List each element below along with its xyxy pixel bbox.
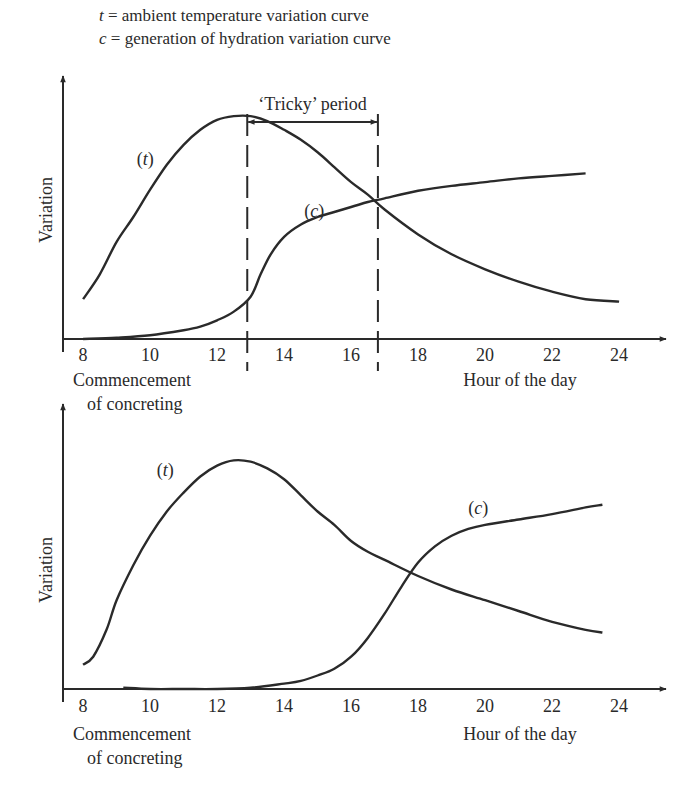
commencement-note-line1: Commencement — [73, 370, 191, 390]
y-axis-label: Variation — [36, 537, 56, 603]
series-label-c: (c) — [304, 201, 324, 222]
x-tick-24: 24 — [610, 345, 628, 365]
x-tick-18: 18 — [409, 696, 427, 716]
series-group: (t)(c) — [83, 116, 619, 339]
series-line-t — [83, 460, 602, 665]
commencement-note-line2: of concreting — [87, 748, 182, 768]
series-label-c: (c) — [468, 498, 488, 519]
tricky-period-label: ‘Tricky’ period — [258, 94, 366, 114]
chart-bottom: Variation 81012141618202224 Hour of the … — [36, 404, 666, 768]
x-tick-14: 14 — [275, 696, 293, 716]
x-tick-18: 18 — [409, 345, 427, 365]
figure: Variation 81012141618202224 Hour of the … — [0, 0, 699, 805]
x-tick-16: 16 — [342, 345, 360, 365]
commencement-note-line2: of concreting — [87, 394, 182, 414]
x-tick-20: 20 — [476, 345, 494, 365]
series-label-t: (t) — [137, 149, 154, 170]
x-tick-10: 10 — [141, 345, 159, 365]
y-axis-label: Variation — [36, 177, 56, 243]
series-line-t — [83, 116, 619, 302]
x-tick-8: 8 — [79, 696, 88, 716]
x-tick-16: 16 — [342, 696, 360, 716]
x-tick-8: 8 — [79, 345, 88, 365]
x-tick-24: 24 — [610, 696, 628, 716]
series-line-c — [123, 505, 602, 689]
x-axis-label: Hour of the day — [463, 370, 576, 390]
series-line-c — [83, 173, 585, 339]
x-tick-labels: 81012141618202224 — [79, 345, 629, 365]
series-group: (t)(c) — [83, 460, 602, 689]
x-tick-20: 20 — [476, 696, 494, 716]
x-tick-22: 22 — [543, 696, 561, 716]
x-tick-12: 12 — [208, 345, 226, 365]
x-tick-22: 22 — [543, 345, 561, 365]
x-axis-label: Hour of the day — [463, 724, 576, 744]
commencement-note-line1: Commencement — [73, 724, 191, 744]
chart-top: Variation 81012141618202224 Hour of the … — [36, 76, 666, 414]
series-label-t: (t) — [157, 460, 174, 481]
x-tick-10: 10 — [141, 696, 159, 716]
x-tick-14: 14 — [275, 345, 293, 365]
x-tick-labels: 81012141618202224 — [79, 696, 629, 716]
x-tick-12: 12 — [208, 696, 226, 716]
